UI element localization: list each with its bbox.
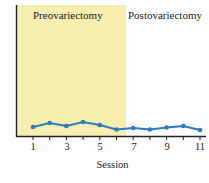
preovariectomy-region (17, 5, 126, 136)
data-point-marker (31, 125, 36, 130)
data-point-marker (47, 121, 52, 126)
data-point-marker (198, 128, 203, 133)
data-point-marker (114, 127, 119, 132)
data-point-marker (81, 120, 86, 125)
data-point-marker (98, 123, 103, 128)
x-tick-label: 5 (97, 141, 102, 152)
data-point-marker (64, 124, 69, 129)
data-point-marker (148, 127, 153, 132)
data-point-marker (164, 125, 169, 130)
postovariectomy-label: Postovariectomy (128, 9, 202, 21)
x-axis-label: Session (0, 159, 209, 170)
x-tick-label: 7 (131, 141, 136, 152)
data-point-marker (181, 124, 186, 129)
x-tick-label: 1 (30, 141, 35, 152)
x-tick-label: 11 (195, 141, 205, 152)
preovariectomy-label: Preovariectomy (33, 9, 103, 21)
line-chart (0, 0, 209, 183)
x-tick-label: 3 (64, 141, 69, 152)
data-point-marker (131, 126, 136, 131)
x-tick-label: 9 (164, 141, 169, 152)
